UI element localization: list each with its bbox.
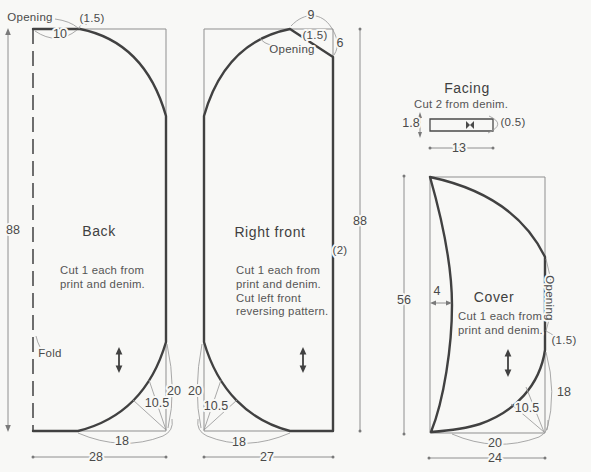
dimension-endpoint-dot (428, 457, 431, 460)
cover-opening-allowance: (1.5) (551, 334, 576, 346)
cover-note-line2: print and denim. (458, 324, 543, 336)
right-front-note-line3: Cut left front (236, 292, 302, 304)
facing-piece: Facing Cut 2 from denim. 1.8 (0.5) 13 (402, 80, 525, 155)
cover-width-label: 24 (488, 451, 502, 465)
facing-title: Facing (444, 80, 490, 96)
right-front-curve-width-label: 18 (232, 435, 246, 449)
grain-arrow-icon (116, 347, 123, 373)
facing-end-allowance: (0.5) (500, 116, 525, 128)
back-curve-width-label: 18 (115, 434, 129, 448)
sewing-pattern-diagram: Opening (1.5) 10 88 Back Cut 1 each from… (0, 0, 591, 472)
grain-arrow-icon (300, 347, 307, 373)
dimension-endpoint-dot (165, 456, 168, 459)
cover-height-label: 56 (397, 293, 411, 307)
back-opening-label: Opening (7, 11, 53, 23)
cover-opening-label: Opening (544, 275, 556, 321)
dimension-endpoint-dot (429, 147, 432, 150)
cover-piece: 56 4 Cover Cut 1 each from print and den… (397, 175, 577, 466)
cover-inset-label: 4 (434, 284, 441, 298)
cover-title: Cover (474, 289, 514, 305)
dimension-endpoint-dot (544, 457, 547, 460)
back-width-label: 28 (89, 450, 103, 464)
dimension-endpoint-dot (203, 456, 206, 459)
right-front-curve-radius-label: 10.5 (204, 399, 228, 413)
cover-inset-arrow (430, 300, 452, 305)
cover-curve-height-label: 18 (557, 385, 571, 399)
cover-curve-height-bracket (546, 352, 552, 430)
back-curve-radius-label: 10.5 (145, 396, 169, 410)
back-height-label: 88 (6, 223, 20, 237)
right-front-piece: 9 (1.5) 6 Opening 88 (2) Right front Cut… (188, 8, 367, 464)
right-front-note-line1: Cut 1 each from (236, 264, 320, 276)
back-fold-label: Fold (38, 347, 62, 359)
back-piece: Opening (1.5) 10 88 Back Cut 1 each from… (5, 11, 181, 464)
cover-note-line1: Cut 1 each from (458, 310, 542, 322)
back-opening-width: 10 (53, 27, 67, 41)
dimension-endpoint-dot (32, 456, 35, 459)
facing-pattern-outline (430, 119, 493, 131)
right-front-side-depth: 6 (337, 36, 344, 50)
dimension-endpoint-dot (403, 433, 406, 436)
facing-height-label: 1.8 (402, 116, 419, 130)
dimension-endpoint-dot (403, 175, 406, 178)
arrowhead-down-icon (5, 425, 11, 432)
grain-arrow-icon (505, 349, 512, 377)
back-title: Back (82, 223, 116, 239)
cover-curve-radius-label: 10.5 (515, 401, 539, 415)
right-front-opening-label: Opening (269, 43, 315, 55)
right-front-width-label: 27 (260, 450, 274, 464)
back-opening-allowance: (1.5) (79, 12, 104, 24)
back-note-line1: Cut 1 each from (60, 264, 144, 276)
arrowhead-up-icon (5, 28, 11, 35)
facing-width-label: 13 (452, 141, 466, 155)
back-note-line2: print and denim. (60, 278, 145, 290)
button-mark-icon (466, 121, 474, 129)
dimension-endpoint-dot (492, 147, 495, 150)
right-front-note-line4: reversing pattern. (236, 305, 328, 317)
right-front-side-allowance: (2) (333, 244, 348, 256)
dimension-endpoint-dot (359, 28, 362, 31)
dimension-endpoint-dot (359, 430, 362, 433)
right-front-curve-height-label: 20 (188, 384, 202, 398)
right-front-top-width: 9 (308, 8, 315, 22)
right-front-note-line2: print and denim. (236, 278, 321, 290)
dimension-endpoint-dot (332, 456, 335, 459)
right-front-opening-allowance: (1.5) (302, 29, 327, 41)
facing-note: Cut 2 from denim. (414, 98, 508, 110)
right-front-height-label: 88 (353, 214, 367, 228)
cover-curve-width-label: 20 (488, 436, 502, 450)
right-front-title: Right front (234, 224, 305, 240)
